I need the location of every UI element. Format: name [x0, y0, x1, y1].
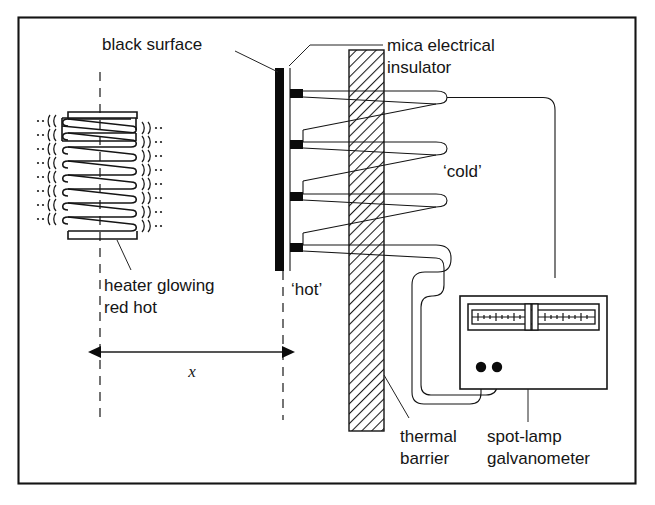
- leader-heater: [117, 240, 131, 270]
- figure-root: ‘cold’ ‘hot’: [0, 0, 655, 505]
- leader-thermal-barrier: [384, 375, 409, 418]
- leader-black-surface: [235, 51, 278, 72]
- mica-label-line2: insulator: [387, 58, 452, 77]
- hot-label: ‘hot’: [291, 280, 322, 299]
- galvanometer-label-line1: spot-lamp: [487, 427, 562, 446]
- radiation-marks-right: [142, 122, 162, 232]
- heater-coil: [62, 112, 137, 239]
- galvanometer-label-line2: galvanometer: [487, 449, 590, 468]
- radiation-marks-left: [37, 115, 56, 225]
- cold-label: ‘cold’: [443, 162, 482, 181]
- coil-left-hooks: [63, 119, 68, 224]
- mica-thermal-barrier: [349, 50, 384, 431]
- thermal-barrier-label-line1: thermal: [400, 427, 457, 446]
- thermopile-hot-junctions: [290, 89, 303, 252]
- mica-label-line1: mica electrical: [387, 36, 495, 55]
- diagram-canvas: ‘cold’ ‘hot’: [0, 0, 655, 505]
- heater-label-line2: red hot: [104, 298, 157, 317]
- figure-border: [19, 18, 636, 484]
- galvanometer-pointer: [525, 304, 538, 330]
- thermal-barrier-label-line2: barrier: [400, 449, 449, 468]
- galvanometer[interactable]: [460, 296, 607, 422]
- heater-label-line1: heater glowing: [104, 276, 215, 295]
- coil-turns: [68, 119, 131, 231]
- black-surface-label: black surface: [102, 35, 202, 54]
- distance-label-x: x: [187, 362, 196, 381]
- black-surface-plate: [275, 68, 290, 271]
